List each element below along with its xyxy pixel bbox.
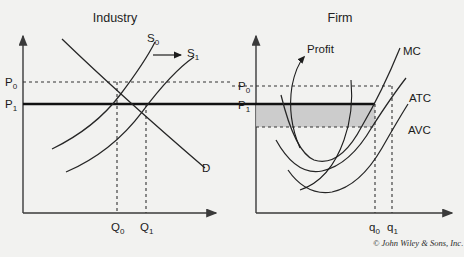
label-avc: AVC	[408, 124, 431, 136]
industry-panel-title: Industry	[93, 11, 138, 25]
label-atc: ATC	[409, 92, 431, 104]
firm-panel-title: Firm	[328, 11, 353, 25]
copyright-credit: © John Wiley & Sons, Inc.	[373, 238, 463, 248]
label-demand: D	[202, 162, 210, 174]
label-mc: MC	[403, 45, 421, 57]
profit-shaded-region	[256, 104, 375, 127]
economics-figure: Industry S0 S1 D P0	[0, 0, 464, 257]
profit-annotation-label: Profit	[307, 43, 335, 55]
figure-background	[0, 0, 464, 257]
